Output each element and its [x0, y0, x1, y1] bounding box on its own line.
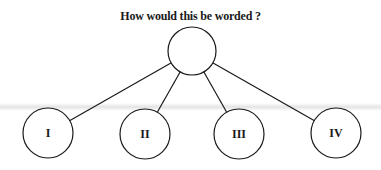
node-label-IV: IV [329, 126, 343, 140]
nodes [23, 27, 361, 159]
root-node [168, 27, 216, 75]
node-labels: I II III IV [46, 126, 343, 141]
node-label-III: III [232, 127, 246, 141]
node-label-II: II [140, 127, 150, 141]
node-label-I: I [46, 126, 51, 140]
tree-diagram: I II III IV [0, 0, 381, 170]
